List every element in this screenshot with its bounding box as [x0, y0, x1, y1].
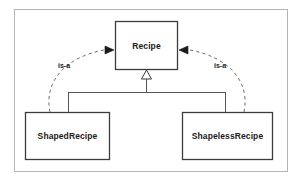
diagram-canvas: [0, 0, 301, 181]
class-box-recipe[interactable]: [116, 22, 178, 70]
class-box-shaped-recipe[interactable]: [26, 113, 110, 160]
class-box-shapeless-recipe[interactable]: [183, 113, 273, 160]
uml-diagram: Recipe ShapedRecipe ShapelessRecipe is-a…: [0, 0, 301, 181]
